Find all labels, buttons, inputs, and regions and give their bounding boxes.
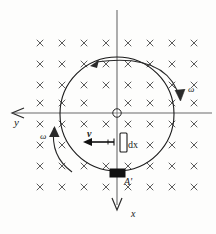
y-axis-label: y xyxy=(14,116,19,128)
physics-figure xyxy=(0,0,216,234)
dx-label: dx xyxy=(128,139,138,150)
velocity-arrow xyxy=(83,138,114,146)
velocity-label: v xyxy=(87,128,91,139)
dx-rod-element xyxy=(120,133,127,152)
contact-block-a-prime xyxy=(110,169,125,177)
x-axis-label: x xyxy=(131,208,135,219)
y-axis xyxy=(12,108,212,118)
omega-right-label: ω xyxy=(188,84,194,94)
origin-marker xyxy=(113,109,121,117)
omega-left-label: ω xyxy=(40,131,46,141)
contact-point-label: A' xyxy=(124,176,132,187)
